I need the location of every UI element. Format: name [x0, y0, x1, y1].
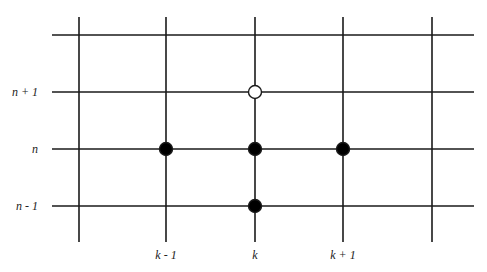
column-labels: k - 1kk + 1	[155, 248, 355, 262]
row-label: n + 1	[12, 85, 38, 99]
column-label: k - 1	[155, 248, 176, 262]
open-node	[249, 86, 262, 99]
row-label: n	[32, 142, 38, 156]
row-label: n - 1	[16, 199, 38, 213]
filled-node	[249, 143, 262, 156]
grid-lines	[52, 17, 474, 242]
stencil-diagram: n + 1nn - 1 k - 1kk + 1	[0, 0, 487, 272]
filled-node	[160, 143, 173, 156]
column-label: k + 1	[330, 248, 355, 262]
filled-node	[249, 200, 262, 213]
row-labels: n + 1nn - 1	[12, 85, 38, 213]
column-label: k	[252, 248, 258, 262]
filled-node	[337, 143, 350, 156]
